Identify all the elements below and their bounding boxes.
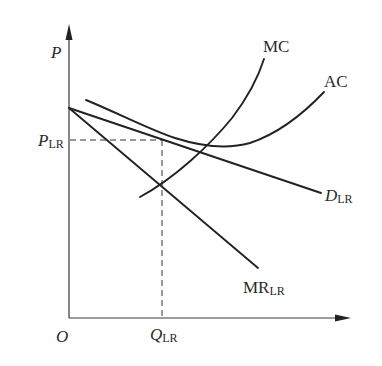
marginal-revenue-curve	[69, 108, 258, 268]
origin-label: O	[56, 327, 68, 346]
d-lr-label: DLR	[324, 186, 353, 206]
ac-label: AC	[324, 72, 348, 91]
y-axis-arrow-icon	[66, 24, 73, 40]
mr-lr-main: MR	[243, 278, 270, 297]
p-lr-sub: LR	[48, 137, 63, 151]
mc-label: MC	[263, 37, 289, 56]
marginal-cost-curve	[140, 59, 264, 197]
demand-curve	[69, 108, 321, 193]
mr-lr-label: MRLR	[243, 278, 285, 298]
average-cost-curve	[86, 92, 324, 147]
cost-revenue-diagram: P O MC AC DLR MRLR PLR QLR	[0, 0, 382, 366]
equilibrium-guides	[70, 140, 162, 318]
p-axis-label: P	[50, 43, 61, 62]
d-lr-sub: LR	[337, 192, 352, 206]
x-axis-arrow-icon	[335, 315, 351, 322]
labels: P O MC AC DLR MRLR PLR QLR	[37, 37, 353, 346]
q-lr-label: QLR	[150, 325, 178, 345]
p-lr-label: PLR	[37, 131, 64, 151]
mr-lr-sub: LR	[269, 284, 284, 298]
d-lr-main: D	[324, 186, 338, 205]
p-lr-main: P	[37, 131, 48, 150]
q-lr-sub: LR	[162, 331, 177, 345]
q-lr-main: Q	[150, 325, 162, 344]
axes	[66, 24, 352, 322]
